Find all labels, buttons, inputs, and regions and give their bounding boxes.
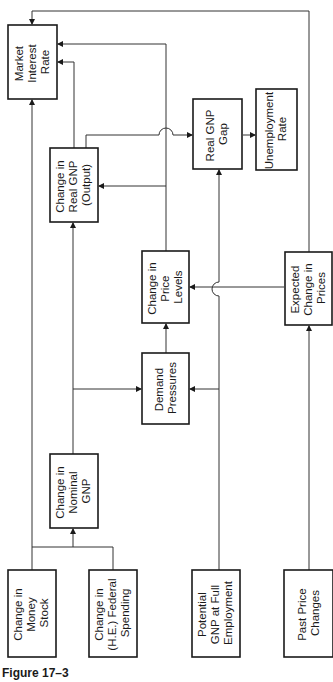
- node-real-gnp-gap: Real GNP Gap: [193, 99, 242, 169]
- node-label-line: Market: [13, 45, 25, 81]
- edge-price-levels-to-real-gnp: [99, 186, 166, 251]
- svg-text:Demand Pressures: Demand Pressures: [153, 362, 178, 414]
- node-label-line: Changes: [309, 590, 321, 636]
- flow-diagram: Market Interest Rate Change in Real GNP …: [0, 0, 333, 682]
- svg-text:Potential GNP at Full: Potential GNP at Full Employment: [196, 580, 234, 645]
- node-label-line: Potential: [196, 592, 208, 637]
- svg-text:Past Price Changes: Past Price Changes: [296, 585, 321, 641]
- node-label-line: GNP at Full: [209, 585, 221, 644]
- edge-potential-gnp-to-real-gnp-gap: [212, 170, 219, 570]
- node-label-line: Unemployment: [263, 91, 275, 169]
- node-label-line: Interest: [26, 44, 38, 83]
- node-label-line: Change in: [54, 160, 66, 212]
- node-change-federal-spending: Change in (H.E.) Federal Spending: [89, 570, 137, 657]
- node-change-money-stock: Change in Money Stock: [8, 570, 56, 657]
- node-label-line: Change in: [93, 588, 105, 640]
- node-label-line: Change in: [302, 263, 314, 315]
- node-label-line: Real GNP: [67, 160, 79, 212]
- node-change-price-levels: Change in Price Levels: [142, 251, 189, 323]
- edge-money-stock-merge: [32, 547, 113, 570]
- node-label-line: Real GNP: [204, 109, 216, 161]
- node-label-line: Change in: [146, 262, 158, 314]
- edge-real-gnp-to-real-gnp-gap: [86, 128, 192, 148]
- node-label-line: (Output): [80, 164, 92, 206]
- node-expected-change-prices: Expected Change in Prices: [285, 252, 332, 325]
- node-label-line: Expected: [289, 266, 301, 314]
- node-label-line: Levels: [172, 270, 184, 303]
- node-change-nominal-gnp: Change in Nominal GNP: [50, 454, 98, 528]
- node-label-line: Pressures: [166, 362, 178, 414]
- node-potential-gnp: Potential GNP at Full Employment: [192, 570, 240, 657]
- figure-caption: Figure 17–3: [2, 666, 69, 680]
- node-label-line: Money: [25, 597, 37, 632]
- node-label-line: Prices: [315, 272, 327, 304]
- edge-real-gnp-to-interest-rate: [58, 62, 74, 148]
- svg-text:Change in Real GNP: Change in Real GNP (Output): [54, 157, 92, 213]
- node-past-price-changes: Past Price Changes: [284, 570, 333, 657]
- node-label-line: Change in: [12, 588, 24, 640]
- node-label-line: Employment: [222, 580, 234, 645]
- node-label-line: Price: [159, 276, 171, 302]
- node-label-line: Stock: [38, 598, 50, 627]
- node-label-line: (H.E.) Federal: [106, 578, 118, 650]
- node-change-real-gnp: Change in Real GNP (Output): [50, 148, 98, 222]
- node-label-line: Change in: [54, 466, 66, 518]
- node-label-line: Rate: [39, 50, 51, 74]
- node-market-interest-rate: Market Interest Rate: [8, 25, 57, 99]
- node-unemployment-rate: Unemployment Rate: [256, 89, 297, 170]
- node-label-line: Spending: [119, 589, 131, 638]
- node-label-line: Gap: [217, 123, 229, 145]
- node-label-line: Demand: [153, 368, 165, 411]
- node-label-line: Past Price: [296, 588, 308, 640]
- node-demand-pressures: Demand Pressures: [142, 353, 189, 424]
- node-label-line: Rate: [276, 117, 288, 141]
- node-label-line: Nominal: [67, 472, 79, 514]
- node-label-line: GNP: [80, 478, 92, 503]
